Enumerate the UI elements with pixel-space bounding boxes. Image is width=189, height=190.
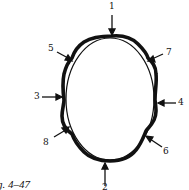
- label-1: 1: [109, 2, 115, 11]
- arrow-4-head: [158, 100, 164, 106]
- label-8: 8: [43, 138, 49, 147]
- label-4: 4: [178, 98, 184, 107]
- label-6: 6: [163, 147, 169, 156]
- label-5: 5: [48, 44, 54, 53]
- figure-ovality-diagram: 1 2 3 4 5 6 7 8 ig. 4–47: [0, 0, 189, 190]
- arrow-3-head: [56, 94, 62, 100]
- ellipse-drawing: [0, 0, 189, 190]
- deformed-outline: [62, 36, 156, 161]
- arrow-6-head: [146, 136, 153, 142]
- arrow-2-head: [102, 163, 108, 169]
- label-2: 2: [102, 183, 108, 190]
- figure-caption: ig. 4–47: [0, 178, 30, 190]
- label-7: 7: [166, 48, 172, 57]
- label-3: 3: [34, 92, 40, 101]
- arrow-8: [54, 131, 64, 137]
